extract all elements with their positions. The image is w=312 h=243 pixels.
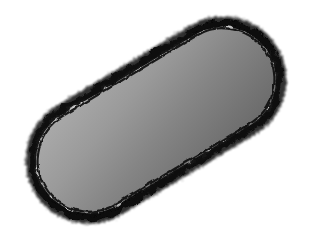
micrograph-canvas [0, 0, 312, 243]
electron-micrograph-image [0, 0, 312, 243]
